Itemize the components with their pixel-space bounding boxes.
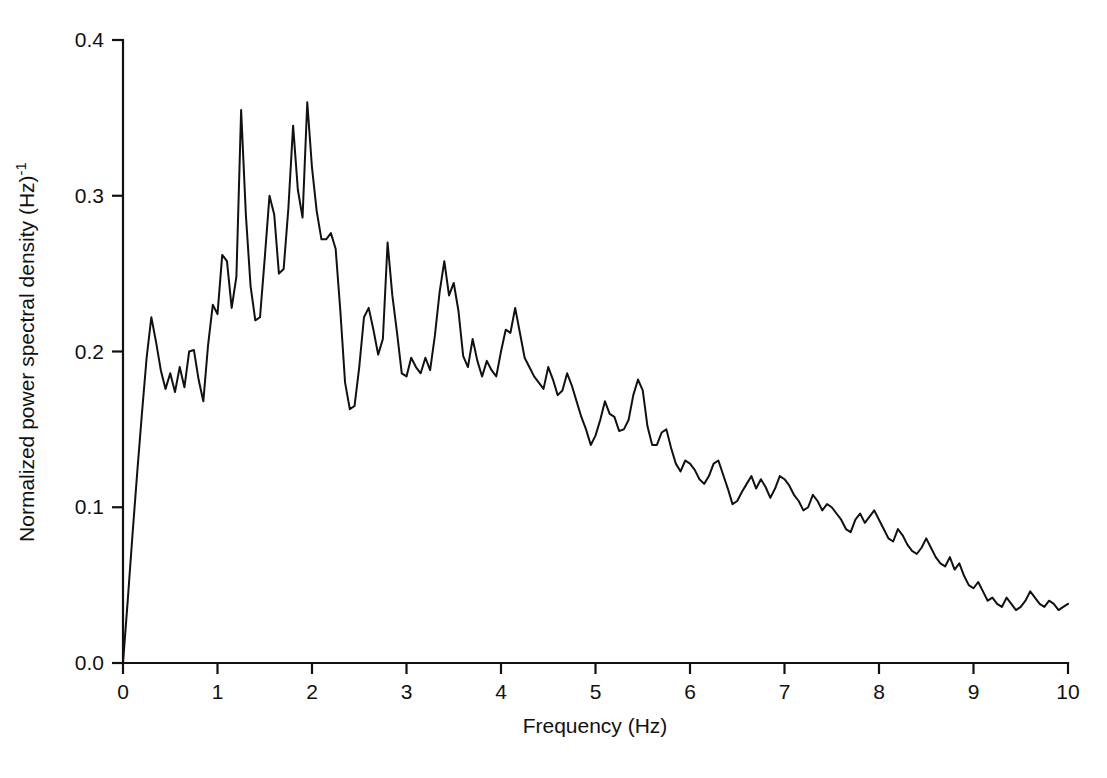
x-tick-label-3: 3	[401, 680, 413, 703]
y-tick-label-0.4: 0.4	[75, 28, 105, 51]
x-tick-label-0: 0	[117, 680, 129, 703]
y-tick-label-0.1: 0.1	[75, 495, 104, 518]
x-axis-ticks	[123, 663, 1068, 674]
y-axis-ticks	[112, 40, 123, 663]
x-axis-tick-labels: 012345678910	[117, 680, 1080, 703]
psd-figure: 012345678910 0.00.10.20.30.4 Frequency (…	[0, 0, 1107, 778]
psd-chart-svg: 012345678910 0.00.10.20.30.4 Frequency (…	[0, 0, 1107, 778]
y-axis-title-exponent: -1	[12, 162, 29, 175]
x-tick-label-2: 2	[306, 680, 318, 703]
x-axis-title: Frequency (Hz)	[523, 714, 668, 737]
x-tick-label-1: 1	[212, 680, 224, 703]
y-tick-label-0.2: 0.2	[75, 340, 104, 363]
psd-data-line	[123, 102, 1068, 663]
x-tick-label-9: 9	[968, 680, 980, 703]
y-tick-label-0.3: 0.3	[75, 184, 104, 207]
y-axis-tick-labels: 0.00.10.20.30.4	[75, 28, 105, 674]
x-tick-label-7: 7	[779, 680, 791, 703]
y-tick-label-0.0: 0.0	[75, 651, 104, 674]
y-axis-title-base: Normalized power spectral density (Hz)	[15, 175, 38, 541]
x-tick-label-10: 10	[1056, 680, 1079, 703]
x-tick-label-8: 8	[873, 680, 885, 703]
x-tick-label-6: 6	[684, 680, 696, 703]
y-axis-title: Normalized power spectral density (Hz)-1	[12, 162, 38, 542]
axes	[123, 40, 1068, 663]
x-tick-label-4: 4	[495, 680, 507, 703]
x-tick-label-5: 5	[590, 680, 602, 703]
